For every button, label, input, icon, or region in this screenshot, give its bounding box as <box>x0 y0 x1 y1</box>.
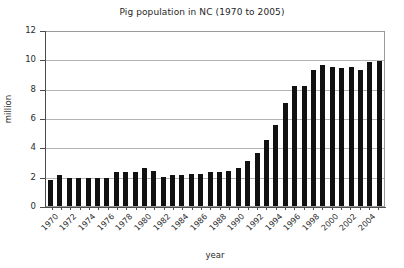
x-axis-tick <box>89 207 90 210</box>
bar <box>339 68 344 206</box>
y-axis-line <box>45 31 46 208</box>
x-axis-tick <box>164 207 165 210</box>
bar <box>330 67 335 206</box>
bar <box>208 172 213 206</box>
bar <box>358 70 363 206</box>
bar <box>104 178 109 206</box>
y-axis-tick <box>40 178 45 179</box>
y-axis-tick <box>40 90 45 91</box>
bar <box>273 125 278 206</box>
bar <box>283 103 288 206</box>
bar <box>114 172 119 206</box>
bar <box>189 174 194 206</box>
y-axis-tick-label: 0 <box>0 201 36 211</box>
bar <box>48 180 53 206</box>
bar-series <box>46 32 384 206</box>
y-axis-tick-label: 10 <box>0 54 36 64</box>
bar <box>367 62 372 206</box>
x-axis-tick <box>192 207 193 210</box>
x-axis-tick <box>294 207 295 210</box>
x-axis-tick <box>210 207 211 210</box>
y-axis-title: million <box>3 79 13 139</box>
bar <box>302 86 307 206</box>
y-axis-tick-label: 12 <box>0 25 36 35</box>
bar <box>198 174 203 206</box>
bar <box>226 171 231 206</box>
bar <box>86 178 91 206</box>
y-axis-tick-label: 4 <box>0 142 36 152</box>
bar <box>95 178 100 206</box>
x-axis-tick <box>322 207 323 210</box>
bar <box>217 172 222 206</box>
x-axis-tick <box>136 207 137 210</box>
bar <box>170 175 175 206</box>
x-axis-tick <box>248 207 249 210</box>
bar <box>292 86 297 206</box>
x-axis-tick <box>61 207 62 210</box>
x-axis-tick <box>182 207 183 210</box>
bar <box>245 161 250 206</box>
x-axis-tick <box>220 207 221 210</box>
x-axis-tick <box>201 207 202 210</box>
x-axis-tick <box>266 207 267 210</box>
y-axis-tick-label: 2 <box>0 172 36 182</box>
bar <box>311 70 316 206</box>
bar <box>123 172 128 206</box>
x-axis-tick <box>117 207 118 210</box>
bar <box>67 178 72 206</box>
x-axis-ticks <box>45 207 385 211</box>
x-axis-tick <box>154 207 155 210</box>
x-axis-tick <box>341 207 342 210</box>
y-axis-tick <box>40 148 45 149</box>
x-axis-tick <box>108 207 109 210</box>
bar <box>161 177 166 206</box>
bar <box>76 178 81 206</box>
bar <box>255 153 260 206</box>
x-axis-tick <box>276 207 277 210</box>
bar <box>151 171 156 206</box>
bar <box>179 175 184 206</box>
x-axis-tick <box>304 207 305 210</box>
bar <box>320 65 325 206</box>
bar <box>236 168 241 206</box>
bar <box>133 172 138 206</box>
y-axis-tick <box>40 60 45 61</box>
bar <box>264 140 269 206</box>
x-axis-tick <box>360 207 361 210</box>
bar <box>349 67 354 206</box>
x-axis-tick <box>350 207 351 210</box>
plot-area <box>45 31 385 207</box>
x-axis-tick <box>70 207 71 210</box>
bar <box>142 168 147 206</box>
x-axis-tick <box>332 207 333 210</box>
x-axis-tick <box>98 207 99 210</box>
chart-figure: Pig population in NC (1970 to 2005) 0246… <box>0 0 404 268</box>
x-axis-tick <box>369 207 370 210</box>
x-axis-tick <box>126 207 127 210</box>
x-axis-tick <box>313 207 314 210</box>
x-axis-tick <box>229 207 230 210</box>
x-axis-title: year <box>45 250 385 260</box>
chart-title: Pig population in NC (1970 to 2005) <box>0 7 404 17</box>
x-axis-tick <box>52 207 53 210</box>
x-axis-tick <box>257 207 258 210</box>
x-axis-tick <box>145 207 146 210</box>
y-axis-tick <box>40 119 45 120</box>
x-axis-tick <box>80 207 81 210</box>
x-axis-tick <box>378 207 379 210</box>
x-axis-tick <box>238 207 239 210</box>
x-axis-tick <box>285 207 286 210</box>
x-axis-tick <box>173 207 174 210</box>
y-axis-tick <box>40 31 45 32</box>
bar <box>377 61 382 206</box>
bar <box>57 175 62 206</box>
